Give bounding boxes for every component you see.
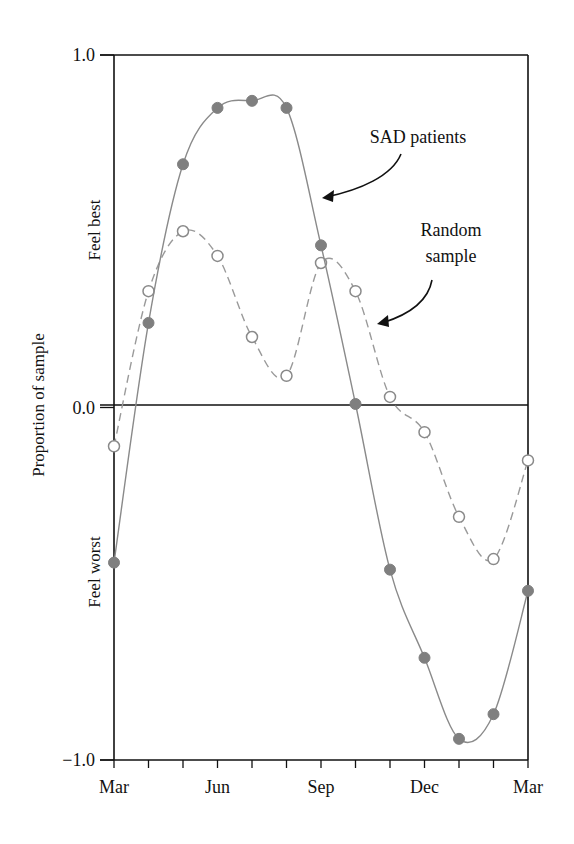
data-point [212,102,223,113]
data-point [488,554,499,565]
x-axis-ticks [114,760,528,768]
annotation-random-label-line2: sample [426,246,477,266]
data-point [488,709,499,720]
data-point [523,455,534,466]
data-point [385,564,396,575]
data-point [212,250,223,261]
y-tick-label: −1.0 [62,750,95,770]
data-point [178,226,189,237]
data-point [247,95,258,106]
series-line [114,95,528,743]
data-point [281,370,292,381]
data-point [350,398,361,409]
series-random-sample [109,226,534,565]
data-point [350,286,361,297]
y-axis-title: Proportion of sample [29,333,48,477]
x-tick-label: Jun [205,777,230,797]
seasonal-mood-chart: MarJunSepDecMar 1.00.0−1.0 Proportion of… [0,0,574,844]
data-point [143,286,154,297]
y-tick-label: 1.0 [73,45,96,65]
arrowhead-icon [377,315,389,327]
arrowhead-icon [322,190,334,202]
data-point [419,652,430,663]
data-point [247,332,258,343]
data-point [316,240,327,251]
series-line [114,230,528,561]
annotation-random-label-line1: Random [421,220,482,240]
data-point [385,391,396,402]
plot-frame [100,55,528,760]
feel-worst-label: Feel worst [85,536,104,608]
data-point [419,427,430,438]
annotation-sad-patients-label: SAD patients [370,127,467,147]
y-axis-labels: 1.00.0−1.0 [62,45,114,770]
y-tick-label: 0.0 [73,398,96,418]
data-point [454,511,465,522]
x-axis-labels: MarJunSepDecMar [99,777,543,797]
x-tick-label: Mar [99,777,129,797]
annotation-random-sample: Random sample [377,220,482,327]
series-sad-patients [109,95,534,744]
feel-best-label: Feel best [85,199,104,260]
annotation-arrow-random [382,280,432,323]
annotation-arrow-sad [326,154,401,197]
data-point [523,585,534,596]
data-point [109,441,120,452]
data-point [109,557,120,568]
x-tick-label: Dec [410,777,439,797]
x-tick-label: Sep [308,777,335,797]
data-point [454,733,465,744]
data-point [143,317,154,328]
data-point [178,159,189,170]
annotation-sad-patients: SAD patients [322,127,466,202]
data-point [281,102,292,113]
x-tick-label: Mar [513,777,543,797]
